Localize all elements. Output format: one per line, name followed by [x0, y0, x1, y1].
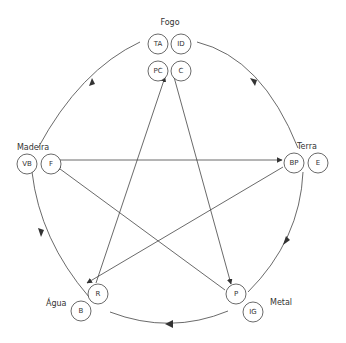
node-c: C	[171, 61, 191, 81]
svg-text:IG: IG	[249, 308, 257, 316]
node-bp: BP	[284, 153, 304, 173]
svg-text:PC: PC	[153, 67, 162, 75]
svg-text:F: F	[49, 160, 53, 168]
node-b: B	[71, 301, 91, 321]
svg-text:TA: TA	[153, 40, 163, 48]
label-metal: Metal	[270, 298, 292, 307]
label-terra: Terra	[296, 142, 317, 151]
label-agua: Água	[46, 297, 67, 308]
node-id: ID	[171, 34, 191, 54]
svg-text:BP: BP	[289, 159, 298, 167]
node-ta: TA	[148, 34, 168, 54]
svg-text:VB: VB	[22, 160, 32, 168]
svg-text:E: E	[316, 159, 320, 167]
svg-text:P: P	[234, 290, 238, 298]
svg-text:ID: ID	[177, 40, 184, 48]
label-madeira: Madeira	[17, 143, 49, 152]
node-pc: PC	[148, 61, 168, 81]
node-vb: VB	[17, 154, 37, 174]
node-p: P	[226, 284, 246, 304]
svg-text:B: B	[79, 307, 84, 315]
node-e: E	[308, 153, 328, 173]
cycle-arcs	[32, 42, 303, 328]
node-ig: IG	[243, 302, 263, 322]
star-edges	[56, 77, 283, 290]
five-elements-diagram: Fogo TA ID PC C Terra BP E Metal P IG Ág…	[0, 0, 346, 343]
node-r: R	[88, 284, 108, 304]
svg-text:R: R	[96, 290, 101, 298]
label-fogo: Fogo	[160, 18, 179, 27]
node-f: F	[41, 154, 61, 174]
svg-text:C: C	[179, 67, 184, 75]
